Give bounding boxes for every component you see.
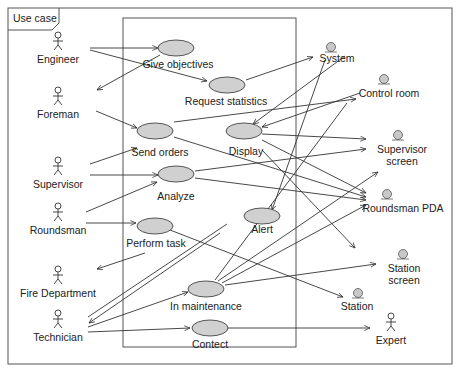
actor-supervisor-icon [53,157,63,175]
boundary-label-station-screen-2: screen [388,274,420,286]
usecase-perform-task[interactable] [137,218,173,234]
actor-fire-department-icon [53,266,63,284]
actor-foreman-icon [53,87,63,105]
usecase-display[interactable] [226,123,262,139]
boundary-label-station: Station [341,300,374,312]
actor-technician-icon [53,310,63,328]
usecase-contect[interactable] [192,320,228,336]
usecase-label-in-maintenance: In maintenance [170,300,242,312]
usecase-alert[interactable] [244,208,280,224]
usecase-request-statistics[interactable] [209,77,245,93]
usecase-label-display: Display [229,145,263,157]
actor-label-roundsman: Roundsman [30,224,87,236]
boundary-label-supervisor-screen-2: screen [386,155,418,167]
usecase-in-maintenance[interactable] [188,281,224,297]
actor-label-supervisor: Supervisor [33,178,83,190]
usecase-label-alert: Alert [251,223,273,235]
actor-roundsman-icon [53,203,63,221]
usecase-give-objectives[interactable] [158,40,194,56]
boundary-label-system: System [319,52,354,64]
actor-label-fire-department: Fire Department [20,287,96,299]
usecase-label-contect: Contect [192,338,228,350]
boundary-system-icon [325,43,337,53]
boundary-supervisor-screen-icon [392,131,404,141]
actor-engineer-icon [53,32,63,50]
frame-title: Use case [13,12,57,24]
boundary-control-room-icon [378,75,390,85]
usecase-label-analyze: Analyze [157,190,194,202]
actor-label-technician: Technician [33,331,83,343]
boundary-station-icon [352,289,364,299]
boundary-label-roundsman-pda: Roundsman PDA [362,202,443,214]
actor-label-expert: Expert [376,334,406,346]
actor-label-foreman: Foreman [37,108,79,120]
actor-label-engineer: Engineer [37,53,79,65]
boundary-label-control-room: Control room [359,87,420,99]
boundary-roundsman-pda-icon [381,190,393,200]
usecase-analyze[interactable] [158,166,194,182]
usecase-label-perform-task: Perform task [126,237,186,249]
usecase-label-send-orders: Send orders [131,146,188,158]
boundary-label-supervisor-screen-1: Supervisor [377,143,427,155]
usecase-label-request-statistics: Request statistics [185,95,267,107]
usecase-send-orders[interactable] [137,123,173,139]
boundary-station-screen-icon [397,250,409,260]
actor-expert-icon [386,313,396,331]
usecase-label-give-objectives: Give objectives [142,58,213,70]
boundary-label-station-screen-1: Station [388,262,421,274]
